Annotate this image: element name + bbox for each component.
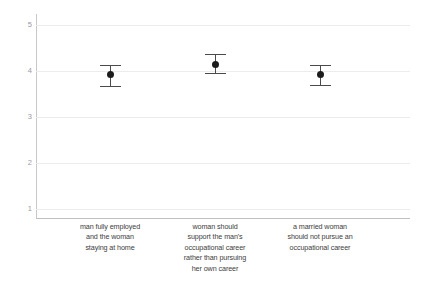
- gridline: [36, 71, 410, 72]
- error-bar-cap-lower: [100, 86, 121, 87]
- plot-area: [36, 18, 410, 218]
- category-label-line: staying at home: [54, 243, 166, 253]
- x-axis-category-label: man fully employedand the womanstaying a…: [54, 222, 166, 253]
- gridline: [36, 117, 410, 118]
- x-axis-category-label: woman shouldsupport the man'soccupationa…: [159, 222, 271, 274]
- category-label-line: man fully employed: [54, 222, 166, 232]
- chart-container: 12345 man fully employedand the womansta…: [0, 0, 427, 289]
- gridline: [36, 25, 410, 26]
- error-bar-cap-lower: [205, 73, 226, 74]
- y-axis-tick-label: 1: [10, 205, 32, 213]
- data-point-marker: [317, 71, 324, 78]
- category-label-line: occupational career: [260, 243, 380, 253]
- category-label-line: a married woman: [260, 222, 380, 232]
- category-label-line: occupational career: [159, 243, 271, 253]
- error-bar-cap-lower: [310, 85, 331, 86]
- y-axis-tick-label: 5: [10, 21, 32, 29]
- data-point-marker: [212, 61, 219, 68]
- category-label-line: rather than pursuing: [159, 253, 271, 263]
- y-axis-tick-label: 3: [10, 113, 32, 121]
- y-axis-tick: 2: [6, 159, 32, 167]
- gridline: [36, 163, 410, 164]
- x-axis-line: [36, 218, 410, 219]
- y-axis-tick: 3: [6, 113, 32, 121]
- category-label-line: support the man's: [159, 232, 271, 242]
- y-axis-tick: 4: [6, 67, 32, 75]
- category-label-line: her own career: [159, 264, 271, 274]
- y-axis-tick: 5: [6, 21, 32, 29]
- error-bar-cap-upper: [205, 54, 226, 55]
- y-axis-tick-label: 4: [10, 67, 32, 75]
- category-label-line: and the woman: [54, 232, 166, 242]
- category-label-line: should not pursue an: [260, 232, 380, 242]
- x-axis-category-label: a married womanshould not pursue anoccup…: [260, 222, 380, 253]
- gridline: [36, 209, 410, 210]
- data-point-marker: [107, 71, 114, 78]
- category-label-line: woman should: [159, 222, 271, 232]
- y-axis-tick: 1: [6, 205, 32, 213]
- error-bar-cap-upper: [100, 65, 121, 66]
- error-bar-cap-upper: [310, 65, 331, 66]
- y-axis-tick-label: 2: [10, 159, 32, 167]
